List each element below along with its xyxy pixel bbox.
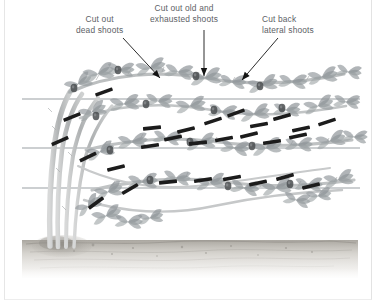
cut-mark: [143, 125, 161, 130]
pruning-diagram-figure: Cut out dead shoots Cut out old and exha…: [0, 0, 380, 304]
cut-mark: [240, 131, 258, 139]
ground-soil: [22, 235, 358, 278]
callout-lateral-line1: Cut back: [262, 14, 314, 25]
cut-mark: [292, 125, 310, 132]
fruit-buds: [71, 66, 294, 190]
cut-mark: [107, 164, 125, 172]
callout-dead-line1: Cut out: [76, 14, 123, 25]
callout-dead-line2: dead shoots: [76, 25, 123, 36]
cut-mark: [318, 118, 336, 127]
callout-label-lateral-shoots: Cut back lateral shoots: [262, 14, 314, 36]
cut-mark: [250, 122, 268, 129]
cut-mark: [95, 87, 113, 97]
callout-label-dead-shoots: Cut out dead shoots: [76, 14, 123, 36]
callout-arrow-exhausted: [201, 30, 207, 76]
callout-exhausted-line2: exhausted shoots: [150, 14, 218, 25]
arrowhead-icon: [201, 68, 207, 76]
callout-lateral-line2: lateral shoots: [262, 25, 314, 36]
callout-label-exhausted-shoots: Cut out old and exhausted shoots: [150, 3, 218, 25]
callout-arrow-lateral: [242, 38, 278, 80]
cut-mark: [177, 126, 195, 134]
illustration-canvas: [0, 0, 380, 304]
cut-mark: [204, 117, 222, 126]
callout-exhausted-line1: Cut out old and: [150, 3, 218, 14]
